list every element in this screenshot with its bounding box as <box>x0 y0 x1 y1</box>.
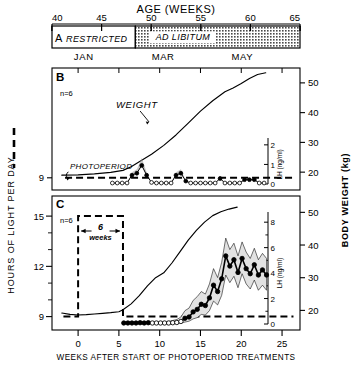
panel-c-bw-tick-label: 40 <box>308 240 319 251</box>
panel-b-lh-point <box>115 181 119 185</box>
panel-b-lh-point <box>120 181 124 185</box>
left-axis-title: HOURS OF LIGHT PER DAY <box>6 156 16 294</box>
age-axis-tick-label: 65 <box>289 12 300 23</box>
age-axis-tick-label: 40 <box>52 12 63 23</box>
panel-b-lh-point <box>130 173 134 177</box>
panel-b-lh-point <box>248 178 252 182</box>
panel-c-lh-point <box>252 263 256 267</box>
panel-a-group: ARESTRICTEDAD LIBITUM <box>52 26 300 48</box>
panel-b-lh-point <box>155 181 159 185</box>
panel-c-lh-point <box>187 315 191 319</box>
panel-c-lh-axis-label: LH (ng/ml) <box>276 258 284 288</box>
panel-c-lh-point <box>207 296 211 300</box>
panel-b-lh-point <box>110 181 114 185</box>
panel-b-lh-point <box>140 164 144 168</box>
panel-b-lh-tick-label: 1 <box>271 161 276 170</box>
panel-b-lh-point <box>262 181 266 185</box>
panel-c-lh-point <box>236 270 240 274</box>
panel-c-lh-point <box>232 258 236 262</box>
panel-c-lh-point <box>256 273 260 277</box>
panel-b-lh-point <box>213 181 217 185</box>
panel-c-lh-point <box>244 266 248 270</box>
panel-b-lh-point <box>179 171 183 175</box>
panel-c-lh-point <box>203 303 207 307</box>
panel-b-lh-point <box>125 181 129 185</box>
panel-c-lh-point <box>228 264 232 268</box>
panel-c-n-label: n=6 <box>60 216 73 225</box>
panel-c-duration-unit: weeks <box>89 233 112 242</box>
panel-b-bw-tick-label: 20 <box>308 167 319 178</box>
panel-b-lh-point <box>208 181 212 185</box>
panel-b-lh-point <box>184 179 188 183</box>
panel-c-lh-point <box>179 319 183 323</box>
panel-c-lh-point <box>191 310 195 314</box>
panel-b-lh-point <box>164 181 168 185</box>
panel-b-weight-label: WEIGHT <box>116 99 158 110</box>
panel-b-left-tick-label: 9 <box>39 172 44 183</box>
panel-b-photoperiod-label: PHOTOPERIOD <box>70 162 132 171</box>
panel-b-lh-point <box>238 181 242 185</box>
age-axis-tick-label: 60 <box>245 12 256 23</box>
panel-b-lh-tick-label: 0 <box>271 180 276 189</box>
panel-b-lh-point <box>135 171 139 175</box>
panel-b-bw-tick-label: 40 <box>308 107 319 118</box>
panel-b-lh-point <box>252 178 256 182</box>
panel-b-lh-point <box>194 181 198 185</box>
panel-c-lh-point <box>215 289 219 293</box>
panel-c-bw-tick-label: 50 <box>308 207 319 218</box>
panel-a-restricted-label: RESTRICTED <box>66 34 128 44</box>
panel-c-lh-point <box>260 268 264 272</box>
panel-b-lh-point <box>199 181 203 185</box>
panel-b-lh-point <box>228 181 232 185</box>
panel-c-left-tick-label: 12 <box>33 261 44 272</box>
panel-c-left-tick-label: 15 <box>33 211 44 222</box>
x-axis-tick-label: 0 <box>75 338 80 349</box>
panel-c-lh-tick-label: 8 <box>271 218 276 227</box>
panel-c-lh-tick-label: 0 <box>271 320 276 329</box>
month-label: JAN <box>74 51 94 62</box>
panel-c-lh-point <box>264 273 268 277</box>
panel-b-lh-point <box>169 181 173 185</box>
panel-a-letter: A <box>55 32 63 44</box>
figure-root: AGE (WEEKS)404550556065 ARESTRICTEDAD LI… <box>0 0 360 371</box>
panel-c-lh-point <box>224 254 228 258</box>
panel-b-bw-tick-label: 30 <box>308 137 319 148</box>
panel-c-letter: C <box>56 198 64 210</box>
x-axis-tick-label: 15 <box>195 338 206 349</box>
panel-b-lh-point <box>218 177 222 181</box>
x-axis-tick-label: 10 <box>154 338 165 349</box>
panel-c-lh-tick-label: 6 <box>271 244 276 253</box>
panel-b-lh-point <box>233 181 237 185</box>
panel-b-bw-tick-label: 50 <box>308 77 319 88</box>
panel-c-lh-point <box>248 272 252 276</box>
panel-c-lh-point <box>195 307 199 311</box>
panel-b-lh-point <box>203 181 207 185</box>
panel-c-lh-point <box>211 283 215 287</box>
panel-c-lh-tick-label: 4 <box>271 269 276 278</box>
age-axis-tick-label: 45 <box>96 12 107 23</box>
figure-svg: AGE (WEEKS)404550556065 ARESTRICTEDAD LI… <box>0 0 360 371</box>
panel-b-lh-point <box>174 173 178 177</box>
panel-c-bw-tick-label: 20 <box>308 305 319 316</box>
x-axis-title: WEEKS AFTER START OF PHOTOPERIOD TREATME… <box>56 353 295 362</box>
panel-b-letter: B <box>56 71 64 83</box>
panel-b-lh-point <box>150 181 154 185</box>
month-label: MAR <box>152 51 175 62</box>
panel-c-lh-tick-label: 2 <box>271 295 276 304</box>
right-axis-title: BODY WEIGHT (kg) <box>340 153 350 248</box>
age-axis-tick-label: 55 <box>196 12 207 23</box>
x-axis-tick-label: 25 <box>277 338 288 349</box>
month-label: MAY <box>232 51 254 62</box>
x-axis-tick-label: 20 <box>236 338 247 349</box>
panel-b-lh-axis-label: LH (ng/ml) <box>276 149 284 179</box>
panel-c-left-tick-label: 9 <box>39 311 44 322</box>
panel-b-lh-point <box>223 181 227 185</box>
figure-background <box>0 0 360 371</box>
panel-c-lh-point <box>240 256 244 260</box>
panel-b-lh-point <box>159 181 163 185</box>
x-axis-tick-label: 5 <box>116 338 121 349</box>
panel-c-lh-point <box>219 277 223 281</box>
panel-b-lh-point <box>257 181 261 185</box>
panel-b-lh-point <box>145 173 149 177</box>
panel-b-lh-tick-label: 2 <box>271 141 276 150</box>
